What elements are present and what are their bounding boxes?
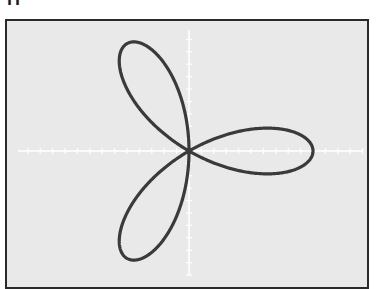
rose-curve-plot [0, 0, 378, 279]
